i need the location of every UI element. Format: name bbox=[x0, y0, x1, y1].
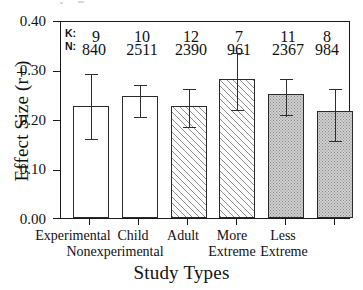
error-bar-line bbox=[335, 89, 336, 142]
error-bar-cap-bottom bbox=[280, 115, 293, 116]
n-value: 2390 bbox=[168, 41, 214, 59]
y-tick-mark bbox=[53, 71, 60, 72]
error-bar-line bbox=[286, 79, 287, 117]
x-label-less-extreme-line2: Extreme bbox=[256, 245, 312, 259]
n-value: 2511 bbox=[119, 41, 165, 59]
error-bar-cap-bottom bbox=[231, 110, 244, 111]
x-tick-mark bbox=[89, 219, 90, 225]
error-bar-line bbox=[237, 53, 238, 111]
x-label-less: Less bbox=[258, 229, 308, 243]
n-value: 840 bbox=[71, 41, 117, 59]
x-label-adult: Adult bbox=[158, 229, 208, 243]
error-bar-cap-bottom bbox=[329, 141, 342, 142]
error-bar-cap-bottom bbox=[134, 117, 147, 118]
scan-artifact bbox=[78, 1, 84, 3]
x-axis-title: Study Types bbox=[0, 262, 363, 284]
y-tick-mark bbox=[53, 218, 60, 219]
error-bar-cap-top bbox=[134, 85, 147, 86]
y-tick-mark bbox=[53, 170, 60, 171]
error-bar-cap-top bbox=[329, 89, 342, 90]
x-label-more: More bbox=[207, 229, 257, 243]
bar-chart-figure: Effect Size (r+) 0.40 0.30 0.20 0.10 0.0… bbox=[0, 0, 363, 290]
x-label-more-extreme-line2: Extreme bbox=[204, 245, 260, 259]
x-label-nonexperimental: Nonexperimental bbox=[50, 245, 180, 259]
y-tick-label: 0.10 bbox=[6, 162, 46, 177]
error-bar-cap-top bbox=[183, 89, 196, 90]
error-bar-line bbox=[140, 85, 141, 118]
plot-area: K: N: 9 10 12 7 11 8 840 2511 2390 961 2… bbox=[60, 21, 350, 219]
y-tick-label: 0.40 bbox=[6, 14, 46, 29]
error-bar-line bbox=[189, 89, 190, 128]
x-tick-mark bbox=[236, 219, 237, 225]
y-tick-mark bbox=[53, 21, 60, 22]
error-bar-line bbox=[91, 74, 92, 140]
n-value: 961 bbox=[216, 41, 262, 59]
error-bar-cap-bottom bbox=[183, 127, 196, 128]
error-bar-cap-bottom bbox=[85, 139, 98, 140]
y-tick-label: 0.00 bbox=[6, 212, 46, 227]
x-tick-mark bbox=[334, 219, 335, 225]
y-axis-tick-labels: 0.40 0.30 0.20 0.10 0.00 bbox=[0, 0, 46, 290]
x-tick-mark bbox=[285, 219, 286, 225]
error-bar-cap-top bbox=[280, 79, 293, 80]
scan-artifact bbox=[60, 2, 63, 4]
y-tick-mark bbox=[53, 120, 60, 121]
error-bar-cap-top bbox=[85, 74, 98, 75]
y-tick-label: 0.30 bbox=[6, 63, 46, 78]
error-bar-cap-top bbox=[231, 53, 244, 54]
y-tick-label: 0.20 bbox=[6, 113, 46, 128]
n-value: 984 bbox=[304, 41, 350, 59]
x-label-child: Child bbox=[108, 229, 158, 243]
x-tick-mark bbox=[187, 219, 188, 225]
x-tick-mark bbox=[138, 219, 139, 225]
